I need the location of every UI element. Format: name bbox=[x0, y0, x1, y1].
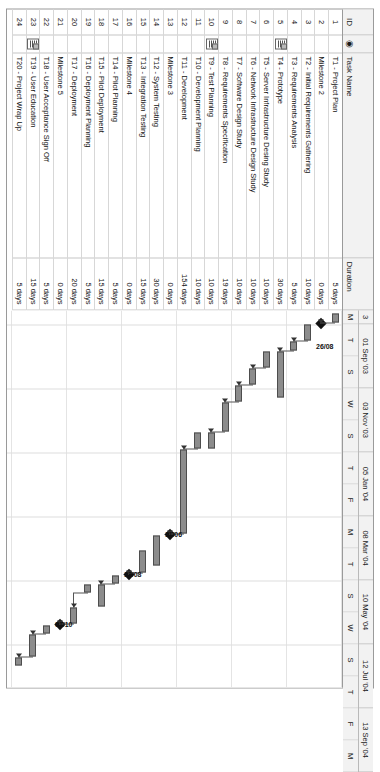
column-header-indicator[interactable]: ◉ bbox=[343, 35, 373, 53]
milestone-date-label: 11/06 bbox=[165, 530, 182, 537]
table-row[interactable]: 14T12 - System Testing30 days bbox=[150, 9, 164, 310]
cell-indicator[interactable] bbox=[302, 35, 315, 53]
cell-duration: 15 days bbox=[137, 258, 150, 310]
table-row[interactable]: 11T10 - Development Planning10 days bbox=[191, 9, 205, 310]
gantt-bar[interactable] bbox=[84, 584, 91, 592]
cell-indicator[interactable] bbox=[233, 35, 246, 53]
timescale-minor-row[interactable]: MTSWSTFMTSWSTFM bbox=[343, 310, 358, 772]
table-row[interactable]: 13Milestone 30 days bbox=[163, 9, 177, 310]
cell-duration: 30 days bbox=[151, 258, 164, 310]
gantt-bar[interactable] bbox=[304, 324, 311, 340]
cell-indicator[interactable] bbox=[164, 35, 177, 53]
cell-duration: 15 days bbox=[96, 258, 109, 310]
cell-indicator[interactable] bbox=[288, 35, 301, 53]
chart-gridline-horizontal bbox=[176, 310, 177, 687]
table-row[interactable]: 21Milestone 50 days bbox=[53, 9, 67, 310]
table-row[interactable]: 23T19 - User Education15 days bbox=[26, 9, 40, 310]
cell-indicator[interactable] bbox=[27, 35, 40, 53]
cell-indicator[interactable] bbox=[137, 35, 150, 53]
cell-id: 20 bbox=[68, 9, 81, 35]
cell-id: 3 bbox=[302, 9, 315, 35]
cell-indicator[interactable] bbox=[329, 35, 342, 53]
gantt-bar[interactable] bbox=[43, 625, 50, 633]
note-icon[interactable] bbox=[206, 38, 218, 49]
indicator-info-icon: ◉ bbox=[345, 40, 354, 48]
cell-indicator[interactable] bbox=[274, 35, 287, 53]
timescale-major-row[interactable]: 301 Sep '0303 Nov '0305 Jan '0408 Mar '0… bbox=[358, 310, 373, 772]
gantt-bar[interactable] bbox=[222, 402, 229, 431]
gantt-bar[interactable] bbox=[180, 449, 187, 533]
table-row[interactable]: 17T14 - Pilot Planning5 days bbox=[108, 9, 122, 310]
sheet-body: 1T1 - Project Plan5 days2Milestone 20 da… bbox=[7, 9, 342, 687]
cell-indicator[interactable] bbox=[13, 35, 26, 53]
cell-indicator[interactable] bbox=[68, 35, 81, 53]
cell-indicator[interactable] bbox=[96, 35, 109, 53]
cell-indicator[interactable] bbox=[192, 35, 205, 53]
gantt-bar[interactable] bbox=[249, 368, 256, 384]
table-row[interactable]: 22T18 - User Acceptance Sign Off5 days bbox=[40, 9, 54, 310]
timescale-minor-4: S bbox=[343, 420, 358, 452]
gantt-bar[interactable] bbox=[15, 657, 22, 665]
chart-gridline-horizontal bbox=[286, 310, 287, 687]
cell-id: 4 bbox=[288, 9, 301, 35]
cell-id: 23 bbox=[27, 9, 40, 35]
gantt-bar[interactable] bbox=[29, 634, 36, 656]
table-row[interactable]: 16Milestone 40 days bbox=[122, 9, 136, 310]
cell-indicator[interactable] bbox=[41, 35, 54, 53]
gantt-bar[interactable] bbox=[139, 550, 146, 572]
table-row[interactable]: 15T13 - Integration Testing15 days bbox=[136, 9, 150, 310]
cell-indicator[interactable] bbox=[54, 35, 67, 53]
cell-indicator[interactable] bbox=[123, 35, 136, 53]
cell-indicator[interactable] bbox=[316, 35, 329, 53]
table-row[interactable]: 19T16 - Deployment Planning5 days bbox=[81, 9, 95, 310]
timescale-minor-2: S bbox=[343, 356, 358, 388]
chart-gridline-vertical bbox=[7, 324, 342, 325]
gantt-bar[interactable] bbox=[332, 313, 339, 322]
note-icon[interactable] bbox=[27, 38, 39, 49]
cell-indicator[interactable] bbox=[261, 35, 274, 53]
timescale-minor-3: W bbox=[343, 388, 358, 420]
task-table[interactable]: 1T1 - Project Plan5 days2Milestone 20 da… bbox=[7, 9, 342, 310]
chart-gridline-horizontal bbox=[341, 310, 342, 687]
table-row[interactable]: 24T20 - Project Wrap Up5 days bbox=[12, 9, 26, 310]
cell-indicator[interactable] bbox=[151, 35, 164, 53]
gantt-bar[interactable] bbox=[153, 535, 160, 565]
cell-indicator[interactable] bbox=[219, 35, 232, 53]
table-row[interactable]: 2Milestone 20 days bbox=[315, 9, 329, 310]
column-header-id[interactable]: ID bbox=[343, 9, 373, 35]
chart-gridline-vertical bbox=[7, 644, 342, 645]
column-header-task-name[interactable]: Task Name bbox=[343, 53, 373, 258]
table-row[interactable]: 8T7 - Software Design Study10 days bbox=[232, 9, 246, 310]
gantt-bar[interactable] bbox=[263, 351, 270, 367]
table-row[interactable]: 6T5 - Server Infrastructure Desing Study… bbox=[260, 9, 274, 310]
cell-indicator[interactable] bbox=[178, 35, 191, 53]
table-row[interactable]: 18T15 - Pilot Deployment15 days bbox=[95, 9, 109, 310]
table-row[interactable]: 9T8 - Requirements Specification19 days bbox=[218, 9, 232, 310]
timescale-major-3: 05 Jan '04 bbox=[359, 452, 373, 516]
gantt-bar[interactable] bbox=[112, 575, 119, 583]
table-row[interactable]: 7T6 - Network Infrastructure Design Stud… bbox=[246, 9, 260, 310]
note-icon[interactable] bbox=[275, 38, 287, 49]
cell-indicator[interactable] bbox=[247, 35, 260, 53]
gantt-bar[interactable] bbox=[208, 432, 215, 448]
cell-task-name: T20 - Project Wrap Up bbox=[13, 53, 26, 258]
table-row[interactable]: 4T3 - Requirements Analysis5 days bbox=[287, 9, 301, 310]
table-row[interactable]: 12T11 - Development154 days bbox=[177, 9, 191, 310]
table-row[interactable]: 20T17 - Deployment20 days bbox=[67, 9, 81, 310]
gantt-bar[interactable] bbox=[277, 351, 284, 397]
table-row[interactable]: 10T9 - Test Planning10 days bbox=[205, 9, 219, 310]
chart-gridline-vertical bbox=[7, 388, 342, 389]
cell-indicator[interactable] bbox=[206, 35, 219, 53]
cell-indicator[interactable] bbox=[82, 35, 95, 53]
cell-indicator[interactable] bbox=[109, 35, 122, 53]
gantt-bar[interactable] bbox=[290, 341, 297, 350]
gantt-chart-pane[interactable]: 26/0811/0613/0801/10 bbox=[7, 310, 342, 687]
gantt-bar[interactable] bbox=[194, 432, 201, 448]
gantt-bar[interactable] bbox=[235, 385, 242, 401]
table-row[interactable]: 5T4 - Prototype30 days bbox=[273, 9, 287, 310]
gantt-bar[interactable] bbox=[98, 584, 105, 606]
column-header-duration[interactable]: Duration bbox=[343, 258, 373, 310]
table-row[interactable]: 1T1 - Project Plan5 days bbox=[328, 9, 342, 310]
table-row[interactable]: 3T2 - Initial Requirements Gathering10 d… bbox=[301, 9, 315, 310]
